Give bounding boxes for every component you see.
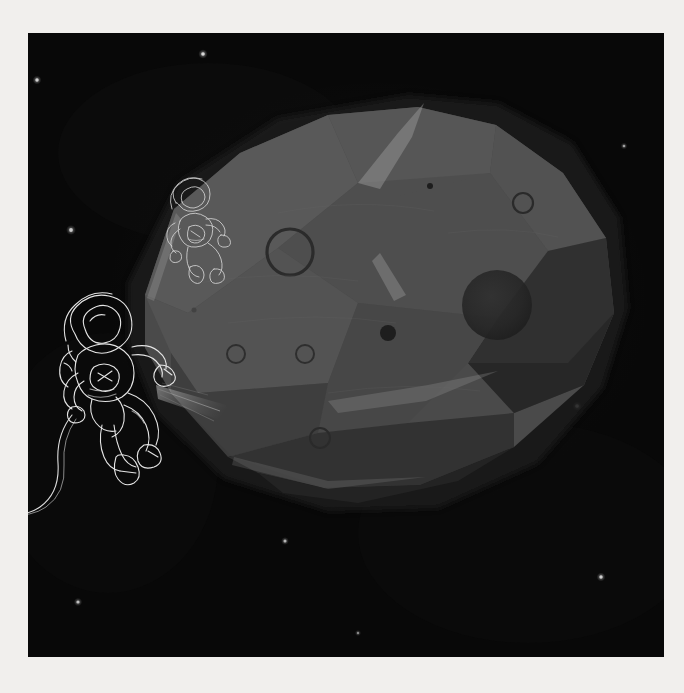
page-root: Astronauts Tethered to a Faceted Asteroi… [0,0,684,693]
artwork-frame [28,33,664,657]
asteroid-spacewalk-illustration [28,33,664,657]
film-grain-overlay [28,33,664,657]
